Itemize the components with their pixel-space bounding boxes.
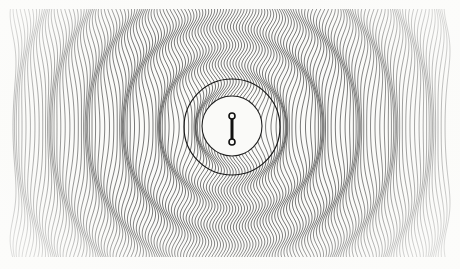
artboard	[0, 0, 460, 269]
ripple-line-art-canvas	[0, 0, 460, 269]
edge-fade-overlay	[0, 0, 460, 269]
